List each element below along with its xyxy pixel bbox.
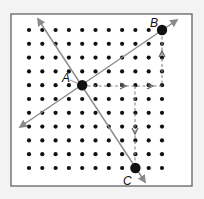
grid-dot: [147, 166, 151, 170]
grid-dot: [93, 166, 97, 170]
point-label-A: A: [61, 71, 70, 85]
grid-dot: [54, 83, 58, 87]
grid-dot: [93, 138, 97, 142]
grid-dot: [80, 152, 84, 156]
grid-dot: [67, 28, 71, 32]
point-A: [77, 80, 87, 90]
grid-dot: [120, 97, 124, 101]
grid-dot: [93, 69, 97, 73]
grid-dot: [160, 138, 164, 142]
grid-dot: [93, 28, 97, 32]
grid-dot: [160, 97, 164, 101]
grid-dot: [120, 125, 124, 129]
grid-dot: [107, 56, 111, 60]
grid-dot: [54, 125, 58, 129]
grid-dot: [107, 111, 111, 115]
grid-dot: [120, 111, 124, 115]
point-C: [130, 163, 140, 173]
grid-dot: [27, 83, 31, 87]
grid-dot: [80, 97, 84, 101]
grid-dot: [67, 111, 71, 115]
grid-dot: [67, 166, 71, 170]
grid-dot: [80, 138, 84, 142]
grid-dot: [27, 138, 31, 142]
grid-dot: [160, 152, 164, 156]
grid-dot: [93, 83, 97, 87]
grid-dot: [93, 111, 97, 115]
grid-dot: [147, 125, 151, 129]
grid-dot: [40, 69, 44, 73]
grid-dot: [54, 152, 58, 156]
grid-dot: [27, 28, 31, 32]
grid-dot: [147, 138, 151, 142]
grid-dot: [54, 97, 58, 101]
grid-dot: [93, 152, 97, 156]
grid-dot: [160, 125, 164, 129]
grid-dot: [93, 97, 97, 101]
grid-dot: [27, 152, 31, 156]
grid-dot: [40, 42, 44, 46]
grid-dot: [93, 56, 97, 60]
grid-dot: [40, 83, 44, 87]
grid-dot: [120, 138, 124, 142]
grid-dot: [67, 42, 71, 46]
grid-dot: [67, 125, 71, 129]
grid-dot: [133, 42, 137, 46]
grid-dot: [107, 152, 111, 156]
grid-dot: [40, 166, 44, 170]
grid-dot: [54, 111, 58, 115]
grid-dot: [107, 69, 111, 73]
grid-dot: [160, 111, 164, 115]
grid-dot: [80, 125, 84, 129]
grid-dot: [107, 83, 111, 87]
grid-dot: [27, 56, 31, 60]
grid-dot: [147, 97, 151, 101]
grid-dot: [54, 166, 58, 170]
grid-dot: [80, 28, 84, 32]
grid-dot: [80, 111, 84, 115]
grid-dot: [120, 69, 124, 73]
grid-dot: [27, 42, 31, 46]
grid-dot: [54, 56, 58, 60]
grid-dot: [40, 152, 44, 156]
grid-dot: [54, 69, 58, 73]
grid-dot: [120, 42, 124, 46]
grid-dot: [107, 97, 111, 101]
grid-dot: [54, 28, 58, 32]
grid-dot: [147, 152, 151, 156]
grid-dot: [147, 69, 151, 73]
grid-dot: [40, 56, 44, 60]
grid-dot: [120, 166, 124, 170]
dot-grid-diagram: ABC: [0, 0, 204, 199]
grid-dot: [27, 69, 31, 73]
grid-dot: [40, 125, 44, 129]
grid-dot: [133, 56, 137, 60]
grid-dot: [133, 28, 137, 32]
grid-dot: [80, 42, 84, 46]
grid-dot: [120, 152, 124, 156]
grid-dot: [80, 56, 84, 60]
grid-dot: [120, 28, 124, 32]
grid-dot: [160, 83, 164, 87]
grid-dot: [107, 28, 111, 32]
grid-dot: [93, 42, 97, 46]
grid-dot: [107, 138, 111, 142]
grid-dot: [147, 42, 151, 46]
point-label-B: B: [150, 16, 158, 30]
grid-dot: [107, 42, 111, 46]
grid-dot: [147, 56, 151, 60]
grid-dot: [160, 166, 164, 170]
grid-dot: [27, 97, 31, 101]
grid-dot: [40, 97, 44, 101]
point-label-C: C: [123, 174, 132, 188]
grid-dot: [147, 111, 151, 115]
grid-dot: [27, 111, 31, 115]
grid-dot: [80, 166, 84, 170]
grid-dot: [54, 138, 58, 142]
grid-dot: [67, 138, 71, 142]
point-B: [157, 25, 167, 35]
grid-dot: [27, 125, 31, 129]
grid-dot: [67, 97, 71, 101]
grid-dot: [67, 152, 71, 156]
grid-dot: [40, 138, 44, 142]
